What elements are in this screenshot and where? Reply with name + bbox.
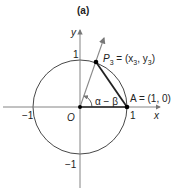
angle-arc bbox=[84, 96, 92, 107]
y-axis-label: y bbox=[71, 28, 76, 38]
point-origin bbox=[78, 105, 82, 109]
tick-x-pos: 1 bbox=[130, 111, 136, 121]
angle-label: α − β bbox=[95, 97, 118, 107]
point-p3 bbox=[94, 60, 99, 65]
x-axis-label: x bbox=[154, 111, 159, 121]
point-a bbox=[125, 105, 130, 110]
p3-label: P3 = (x3, y3) bbox=[103, 54, 155, 66]
origin-label: O bbox=[67, 113, 75, 123]
tick-y-pos: 1 bbox=[73, 50, 79, 60]
tick-x-neg: −1 bbox=[22, 111, 33, 121]
tick-y-neg: −1 bbox=[65, 160, 76, 170]
a-label: A = (1, 0) bbox=[130, 94, 171, 104]
